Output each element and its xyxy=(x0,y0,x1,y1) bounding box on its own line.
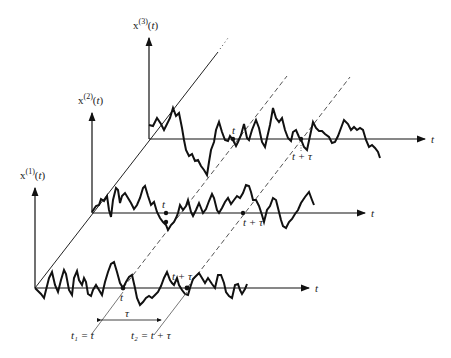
sample-function-2 xyxy=(92,185,314,230)
ensemble-diagram: x(3)(t) t t t + τ x(2)(t) t t t + τ x(1)… xyxy=(0,0,451,358)
xlabel-axis-3: t xyxy=(431,133,435,145)
dashed-time-lines xyxy=(123,76,350,288)
label-t-3: t xyxy=(232,124,236,136)
t2-label: t₂ = t + τ xyxy=(131,329,172,341)
label-ttau-2: t + τ xyxy=(243,216,264,228)
point-ttau-1 xyxy=(185,286,190,291)
point-t-3 xyxy=(231,137,235,141)
point-ttau-2 xyxy=(164,220,168,224)
ylabel-axis-1: x(1)(t) xyxy=(20,167,46,182)
tau-label: τ xyxy=(125,307,130,319)
ylabel-axis-2: x(2)(t) xyxy=(78,92,104,107)
ylabel-axis-3: x(3)(t) xyxy=(133,17,159,32)
sample-function-3 xyxy=(149,108,380,175)
axis-2 xyxy=(92,113,365,230)
label-t-2: t xyxy=(162,198,166,210)
point-t-1 xyxy=(121,286,126,291)
xlabel-axis-2: t xyxy=(371,207,375,219)
axis-3 xyxy=(149,38,425,175)
point-t-2 xyxy=(164,211,168,215)
label-ttau-1: t + τ xyxy=(172,270,193,282)
point-t+tau-2 xyxy=(241,211,245,215)
t1-label: t₁ = t xyxy=(71,329,95,341)
label-ttau-3: t + τ xyxy=(292,150,313,162)
sample-function-1 xyxy=(35,262,247,305)
xlabel-axis-1: t xyxy=(315,282,319,294)
point-ttau-3 xyxy=(299,137,303,141)
axis-1 xyxy=(35,188,309,305)
